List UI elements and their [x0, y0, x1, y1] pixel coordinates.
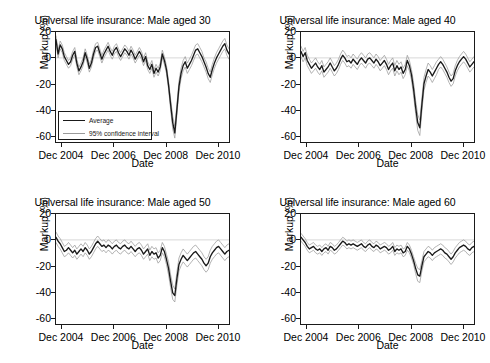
y-tick-label: 0 — [252, 234, 296, 244]
y-tick-label: -60 — [252, 131, 296, 141]
x-tick-mark — [113, 325, 114, 329]
y-tick-label: -20 — [252, 79, 296, 89]
y-tick-label: -40 — [7, 287, 51, 297]
legend-label: 95% confidence interval — [89, 130, 159, 137]
chart-panel: Universal life insurance: Male aged 40Ma… — [245, 0, 490, 181]
chart-legend: Average95% confidence interval — [58, 111, 152, 140]
y-tick-group: 200-20-40-60 — [0, 31, 51, 143]
average-line — [56, 237, 229, 295]
y-tick-group: 200-20-40-60 — [0, 213, 51, 325]
x-axis-label: Date — [55, 157, 230, 169]
x-axis-label: Date — [300, 157, 475, 169]
y-tick-label: 0 — [252, 52, 296, 62]
x-tick-mark — [113, 143, 114, 147]
chart-panel: Universal life insurance: Male aged 50Ma… — [0, 182, 245, 363]
chart-panel: Universal life insurance: Male aged 30Ma… — [0, 0, 245, 181]
y-tick-label: 20 — [252, 208, 296, 218]
average-line — [301, 237, 474, 276]
x-axis-label: Date — [300, 339, 475, 351]
legend-swatch-average — [63, 120, 85, 121]
y-tick-group: 200-20-40-60 — [245, 213, 296, 325]
plot-canvas — [301, 214, 474, 324]
x-tick-mark — [166, 143, 167, 147]
panel-title: Universal life insurance: Male aged 30 — [0, 14, 245, 26]
x-tick-mark — [306, 143, 307, 147]
y-tick-label: 20 — [252, 26, 296, 36]
legend-swatch-confidence-interval — [63, 133, 85, 134]
plot-canvas — [56, 214, 229, 324]
plot-area: Average95% confidence interval — [55, 31, 230, 143]
panel-title: Universal life insurance: Male aged 60 — [245, 196, 490, 208]
y-tick-label: -20 — [7, 261, 51, 271]
y-tick-label: 20 — [7, 208, 51, 218]
y-tick-group: 200-20-40-60 — [245, 31, 296, 143]
x-tick-mark — [218, 143, 219, 147]
legend-item-average: Average — [59, 113, 151, 127]
y-tick-label: -60 — [7, 131, 51, 141]
x-tick-mark — [218, 325, 219, 329]
x-tick-mark — [358, 325, 359, 329]
plot-area — [55, 213, 230, 325]
y-tick-label: -20 — [7, 79, 51, 89]
y-tick-label: -40 — [252, 287, 296, 297]
y-tick-label: -40 — [7, 105, 51, 115]
x-tick-mark — [306, 325, 307, 329]
x-tick-mark — [463, 143, 464, 147]
confidence-interval-line — [301, 241, 474, 282]
legend-label: Average — [89, 117, 113, 124]
x-tick-mark — [358, 143, 359, 147]
y-tick-label: 0 — [7, 52, 51, 62]
panel-title: Universal life insurance: Male aged 40 — [245, 14, 490, 26]
panel-title: Universal life insurance: Male aged 50 — [0, 196, 245, 208]
x-tick-mark — [463, 325, 464, 329]
plot-canvas — [301, 32, 474, 142]
y-tick-label: -20 — [252, 261, 296, 271]
x-tick-mark — [61, 325, 62, 329]
confidence-interval-line — [301, 233, 474, 269]
plot-area — [300, 213, 475, 325]
legend-item-confidence-interval: 95% confidence interval — [59, 126, 151, 140]
y-tick-label: -60 — [7, 313, 51, 323]
x-tick-mark — [411, 325, 412, 329]
y-tick-label: -60 — [252, 313, 296, 323]
x-axis-label: Date — [55, 339, 230, 351]
x-tick-mark — [411, 143, 412, 147]
figure-grid: Universal life insurance: Male aged 30Ma… — [0, 0, 490, 363]
y-tick-label: 0 — [7, 234, 51, 244]
y-tick-label: 20 — [7, 26, 51, 36]
x-tick-mark — [166, 325, 167, 329]
plot-area — [300, 31, 475, 143]
chart-panel: Universal life insurance: Male aged 60Ma… — [245, 182, 490, 363]
y-tick-label: -40 — [252, 105, 296, 115]
x-tick-mark — [61, 143, 62, 147]
confidence-interval-line — [301, 46, 474, 120]
